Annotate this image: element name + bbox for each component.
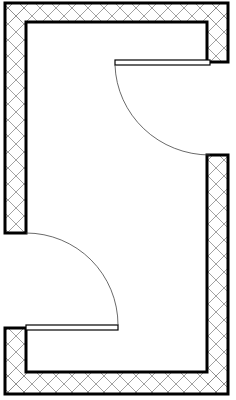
- door-bottom-left: [26, 233, 118, 330]
- floor-plan: [0, 0, 236, 400]
- door-leaf: [115, 60, 210, 65]
- door-swing-arc: [115, 65, 210, 155]
- door-swing-arc: [26, 233, 118, 325]
- door-leaf: [26, 325, 118, 330]
- door-top-right: [115, 60, 210, 155]
